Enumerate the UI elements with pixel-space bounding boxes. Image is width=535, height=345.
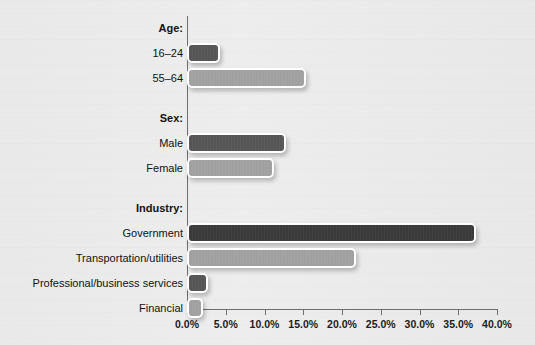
bar-fill	[189, 45, 218, 61]
bar-fill	[189, 70, 304, 86]
chart-row: Financial	[0, 295, 535, 320]
group-header-row: Industry:	[0, 196, 535, 220]
chart-row: 55–64	[0, 65, 535, 90]
bar-fill	[189, 300, 201, 316]
bar	[187, 248, 356, 268]
bar	[187, 133, 286, 153]
bar	[187, 68, 306, 88]
bar-fill	[189, 225, 474, 241]
chart-row: 16–24	[0, 40, 535, 65]
chart-row: Male	[0, 130, 535, 155]
category-label: 55–64	[152, 72, 183, 84]
bar	[187, 223, 476, 243]
bar	[187, 158, 274, 178]
category-label: Female	[146, 162, 183, 174]
group-label: Age:	[159, 22, 183, 34]
group-header-row: Sex:	[0, 106, 535, 130]
category-label: Government	[122, 227, 183, 239]
bar-fill	[189, 160, 272, 176]
category-label: Male	[159, 137, 183, 149]
bar	[187, 273, 208, 293]
chart-row: Female	[0, 155, 535, 180]
horizontal-bar-chart: 0.0%5.0%10.0%15.0%20.0%25.0%30.0%35.0%40…	[0, 0, 535, 345]
bar	[187, 298, 203, 318]
group-header-row: Age:	[0, 16, 535, 40]
plot-area: 0.0%5.0%10.0%15.0%20.0%25.0%30.0%35.0%40…	[0, 0, 535, 345]
chart-row: Professional/business services	[0, 270, 535, 295]
group-label: Sex:	[160, 112, 183, 124]
chart-row: Government	[0, 220, 535, 245]
category-label: Professional/business services	[33, 277, 183, 289]
category-label: Financial	[139, 302, 183, 314]
group-label: Industry:	[136, 202, 183, 214]
bar-fill	[189, 250, 354, 266]
category-label: Transportation/utilities	[76, 252, 183, 264]
bar-fill	[189, 275, 206, 291]
chart-row: Transportation/utilities	[0, 245, 535, 270]
bar-fill	[189, 135, 284, 151]
bar	[187, 43, 220, 63]
category-label: 16–24	[152, 47, 183, 59]
